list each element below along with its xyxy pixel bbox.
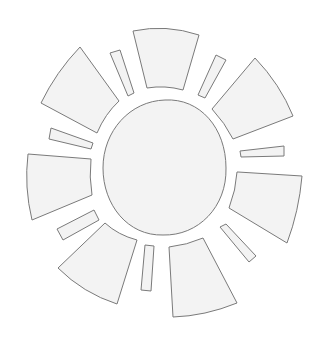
- bar-top-left-icon: [110, 50, 134, 96]
- sun-disc-icon: [103, 100, 226, 235]
- ray-top-icon: [133, 28, 199, 90]
- ray-bottom-icon: [169, 238, 237, 317]
- ray-right-icon: [229, 172, 302, 243]
- sun-illustration: [0, 0, 325, 345]
- bar-top-right-icon: [198, 55, 226, 98]
- ray-upper-left-icon: [41, 47, 119, 133]
- bar-lower-right-icon: [220, 224, 256, 262]
- bar-right-icon: [240, 146, 284, 157]
- bar-left-icon: [49, 128, 93, 149]
- ray-left-icon: [27, 154, 92, 220]
- ray-upper-right-icon: [212, 58, 293, 139]
- bar-bottom-icon: [141, 245, 154, 291]
